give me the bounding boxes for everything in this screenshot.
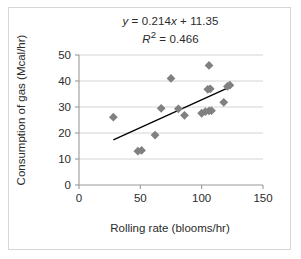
y-tick-label-0: 0: [49, 180, 71, 191]
x-tick-label-150: 150: [248, 193, 278, 204]
r-squared-value: R2 = 0.466: [78, 28, 263, 46]
x-tick-label-50: 50: [125, 193, 155, 204]
y-tick-label-50: 50: [49, 50, 71, 61]
equation-annotation: y = 0.214x + 11.35 R2 = 0.466: [78, 14, 263, 46]
data-point-5: [167, 74, 176, 83]
data-points: [109, 61, 234, 156]
y-tick-label-20: 20: [49, 128, 71, 139]
y-tick-label-40: 40: [49, 76, 71, 87]
regression-equation: y = 0.214x + 11.35: [78, 14, 263, 28]
y-tick-label-30: 30: [49, 102, 71, 113]
data-point-0: [109, 113, 118, 122]
y-axis-title: Consumption of gas (Mcal/hr): [15, 25, 27, 195]
tick-marks: [75, 55, 263, 189]
x-tick-label-0: 0: [64, 193, 94, 204]
data-point-4: [157, 104, 166, 113]
data-point-3: [151, 131, 160, 140]
data-point-7: [180, 111, 189, 120]
x-tick-label-100: 100: [187, 193, 217, 204]
data-point-14: [205, 61, 214, 70]
data-point-15: [219, 98, 228, 107]
trendline: [113, 86, 232, 140]
gridlines: [79, 55, 263, 159]
x-axis-title: Rolling rate (blooms/hr): [60, 222, 280, 234]
y-tick-label-10: 10: [49, 154, 71, 165]
trendline-path: [113, 86, 232, 140]
